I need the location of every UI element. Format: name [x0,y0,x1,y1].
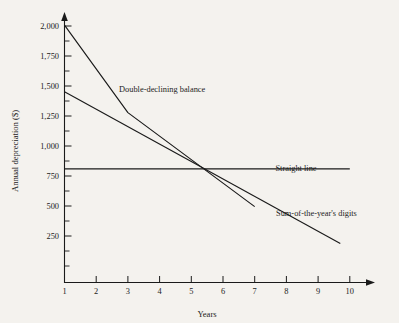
chart-svg: 2,000 1,750 1,500 1,250 1,000 750 500 25… [0,0,399,323]
y-axis-title: Annual depreciation ($) [10,110,20,192]
x-axis-title: Years [197,309,217,319]
x-tick-label-5: 5 [189,287,193,296]
x-tick-label-8: 8 [284,287,288,296]
y-tick-label-1250: 1,250 [40,112,59,121]
y-tick-label-1000: 1,000 [40,142,59,151]
y-tick-label-250: 250 [46,232,59,241]
x-tick-label-1: 1 [62,287,66,296]
x-tick-label-9: 9 [316,287,320,296]
depreciation-chart: 2,000 1,750 1,500 1,250 1,000 750 500 25… [0,0,399,323]
y-tick-label-1750: 1,750 [40,52,59,61]
x-tick-label-7: 7 [253,287,257,296]
y-tick-label-750: 750 [46,172,59,181]
y-tick-label-1500: 1,500 [40,82,59,91]
y-tick-label-500: 500 [46,202,59,211]
x-tick-label-2: 2 [94,287,98,296]
x-tick-label-10: 10 [346,287,354,296]
x-tick-label-6: 6 [221,287,225,296]
series-label-sum-of-years-digits: Sum-of-the-year's digits [276,209,357,218]
series-label-double-declining-balance: Double-declining balance [119,85,206,94]
y-tick-label-2000: 2,000 [40,22,59,31]
series-label-straight-line: Straight line [275,164,316,173]
x-tick-label-3: 3 [126,287,130,296]
chart-background [0,0,399,323]
